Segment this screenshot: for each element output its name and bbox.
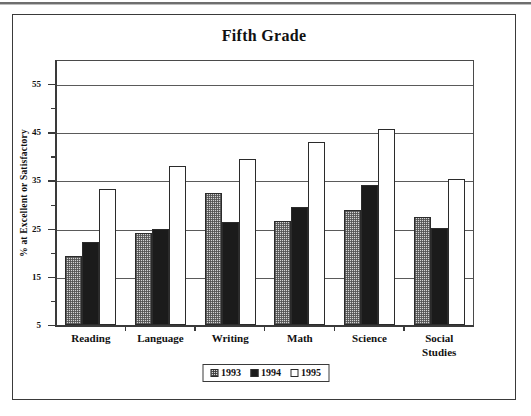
bar-1993	[344, 210, 361, 325]
category-label-line: Social	[404, 332, 474, 346]
bar-1995	[378, 129, 395, 325]
bar-1994	[152, 229, 169, 325]
legend-label-1994: 1994	[261, 367, 281, 378]
bar-1995	[99, 189, 116, 325]
bar-1993	[205, 193, 222, 325]
x-axis-tick	[334, 325, 335, 331]
legend-item-1995[interactable]: 1995	[290, 367, 321, 378]
category-label-line: Writing	[195, 332, 265, 346]
category-label: SocialStudies	[404, 332, 474, 360]
bar-1995	[308, 142, 325, 325]
bar-1995	[448, 179, 465, 325]
x-axis-tick	[403, 325, 404, 331]
category-label: Reading	[56, 332, 126, 360]
legend-item-1994[interactable]: 1994	[250, 367, 281, 378]
y-axis-tick-label: 55	[32, 79, 41, 89]
x-axis	[55, 325, 474, 327]
legend-swatch-1995-icon	[290, 369, 298, 377]
bar-1994	[291, 207, 308, 325]
bar-1994	[82, 242, 99, 325]
y-axis-tick-major: 45	[48, 132, 56, 133]
y-axis-tick-label: 35	[32, 175, 41, 185]
bar-group	[404, 60, 474, 325]
bar-1995	[239, 159, 256, 325]
y-axis-tick-major: 15	[48, 277, 56, 278]
bar-group	[56, 60, 126, 325]
bar-groups	[56, 60, 474, 325]
category-label-line: Language	[126, 332, 196, 346]
category-labels: ReadingLanguageWritingMathScienceSocialS…	[56, 332, 474, 360]
legend-swatch-1993-icon	[210, 369, 218, 377]
chart-title: Fifth Grade	[13, 27, 515, 45]
x-axis-tick	[194, 325, 195, 331]
category-label: Science	[335, 332, 405, 360]
y-axis-tick-label: 15	[32, 272, 41, 282]
legend-label-1995: 1995	[301, 367, 321, 378]
legend-swatch-1994-icon	[250, 369, 258, 377]
x-axis-tick	[125, 325, 126, 331]
category-label: Writing	[195, 332, 265, 360]
category-label: Math	[265, 332, 335, 360]
y-axis-tick-label: 25	[32, 224, 41, 234]
bar-group	[265, 60, 335, 325]
category-label-line: Science	[335, 332, 405, 346]
bar-1993	[274, 221, 291, 325]
chart-legend: 1993 1994 1995	[202, 364, 329, 382]
bar-1994	[431, 228, 448, 325]
bar-1993	[135, 233, 152, 325]
category-label-line: Reading	[56, 332, 126, 346]
y-axis-tick-major: 25	[48, 229, 56, 230]
x-axis-tick	[264, 325, 265, 331]
y-axis-tick-label: 5	[37, 320, 42, 330]
category-label-line: Studies	[404, 346, 474, 360]
bar-group	[195, 60, 265, 325]
y-axis-title: % at Excellent or Satisfactory	[17, 60, 31, 326]
category-label-line: Math	[265, 332, 335, 346]
legend-item-1993[interactable]: 1993	[210, 367, 241, 378]
y-axis-tick-major: 35	[48, 180, 56, 181]
bar-1993	[414, 217, 431, 325]
bar-group	[126, 60, 196, 325]
bar-1993	[65, 256, 82, 325]
bar-1994	[222, 222, 239, 325]
y-axis-title-text: % at Excellent or Satisfactory	[19, 129, 29, 257]
legend-label-1993: 1993	[221, 367, 241, 378]
bar-group	[335, 60, 405, 325]
bar-1995	[169, 166, 186, 325]
category-label: Language	[126, 332, 196, 360]
y-axis-tick-label: 45	[32, 127, 41, 137]
y-axis-tick-major: 55	[48, 84, 56, 85]
page-edge-line-secondary	[0, 4, 531, 5]
bar-1994	[361, 185, 378, 325]
